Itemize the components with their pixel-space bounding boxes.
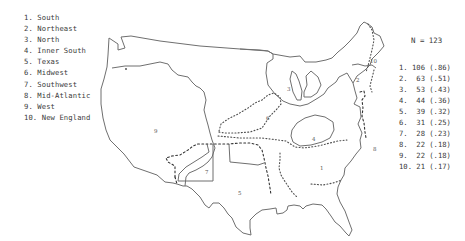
region-label-2: 2 bbox=[356, 77, 360, 83]
region-label-9: 9 bbox=[154, 128, 158, 134]
region-label-6: 6 bbox=[266, 115, 270, 121]
north-region-boundary bbox=[240, 49, 353, 106]
us-regions-map: 1 2 3 4 5 6 7 8 9 10 bbox=[0, 0, 465, 241]
midwest-region-dotted-boundary bbox=[218, 93, 281, 133]
midwest-south-dotted-boundary bbox=[218, 136, 347, 148]
texas-panhandle-boundary bbox=[229, 144, 264, 165]
us-outline bbox=[101, 22, 384, 236]
florida-dotted-boundary bbox=[311, 180, 342, 185]
region-label-1: 1 bbox=[320, 165, 324, 171]
northeast-region-boundary bbox=[352, 64, 376, 68]
southwest-beaded-segment bbox=[175, 177, 177, 184]
texas-southwest-beaded-boundary bbox=[166, 143, 271, 195]
region-label-8: 8 bbox=[373, 146, 377, 152]
lake-michigan-shoreline bbox=[290, 71, 302, 100]
region-label-10: 10 bbox=[370, 58, 377, 64]
region-label-7: 7 bbox=[205, 169, 209, 175]
michigan-peninsula bbox=[304, 71, 321, 97]
region-label-3: 3 bbox=[287, 86, 291, 92]
south-region-dotted-boundary bbox=[279, 153, 297, 197]
west-region-boundary bbox=[112, 62, 215, 186]
region-label-5: 5 bbox=[238, 190, 242, 196]
northeast-dotted-boundary bbox=[370, 70, 374, 92]
region-label-4: 4 bbox=[312, 136, 316, 142]
map-dot-marker bbox=[125, 68, 127, 70]
